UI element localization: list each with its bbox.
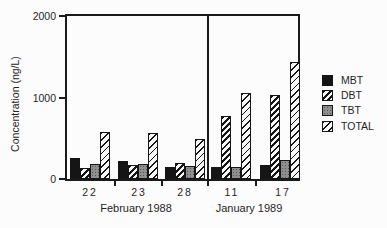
panel-label-1: January 1989 — [189, 202, 309, 214]
bar-dbt-11 — [221, 116, 231, 179]
bar-mbt-28 — [165, 167, 175, 179]
x-tick-mark-1 — [161, 181, 163, 186]
panel-label-0: February 1988 — [76, 202, 196, 214]
legend-entry-mbt: MBT — [322, 75, 374, 86]
bar-dbt-22 — [80, 168, 90, 179]
y-tick-mark-0 — [59, 178, 65, 180]
legend-entry-tbt: TBT — [322, 105, 374, 116]
bar-tbt-28 — [185, 166, 195, 179]
x-category-label-17: 17 — [263, 186, 303, 198]
bar-tbt-17 — [280, 160, 290, 179]
mbt-swatch-icon — [322, 75, 333, 86]
y-tick-mark-2000 — [59, 15, 65, 17]
x-category-label-23: 23 — [119, 186, 159, 198]
bar-mbt-11 — [211, 167, 221, 179]
legend-label: TOTAL — [341, 121, 374, 132]
bar-chart-figure: Concentration (ng/L) 0100020002223281117… — [0, 0, 387, 228]
total-swatch-icon — [322, 121, 333, 132]
y-tick-label-1000: 1000 — [14, 92, 56, 104]
legend-label: DBT — [341, 90, 362, 101]
bar-mbt-17 — [260, 165, 270, 179]
x-tick-mark-3 — [255, 181, 257, 186]
y-tick-label-2000: 2000 — [14, 10, 56, 22]
plot-area — [65, 14, 300, 181]
bar-tbt-23 — [138, 164, 148, 179]
x-tick-mark-0 — [114, 181, 116, 186]
legend: MBT DBT TBT TOTAL — [322, 75, 374, 136]
y-axis-title: Concentration (ng/L) — [9, 44, 23, 164]
tbt-swatch-icon — [322, 105, 333, 116]
y-tick-label-0: 0 — [14, 173, 56, 185]
legend-entry-total: TOTAL — [322, 121, 374, 132]
bar-total-28 — [195, 139, 205, 179]
bar-dbt-17 — [270, 95, 280, 179]
x-tick-mark-2 — [207, 181, 209, 186]
bar-total-17 — [290, 62, 300, 179]
legend-label: TBT — [341, 105, 361, 116]
panel-separator-line — [207, 16, 209, 179]
dbt-swatch-icon — [322, 90, 333, 101]
bar-tbt-11 — [231, 167, 241, 179]
x-category-label-22: 22 — [70, 186, 110, 198]
bar-dbt-28 — [175, 163, 185, 179]
bar-total-22 — [100, 132, 110, 179]
bar-tbt-22 — [90, 164, 100, 179]
bar-mbt-22 — [70, 158, 80, 179]
legend-entry-dbt: DBT — [322, 90, 374, 101]
bar-total-23 — [148, 133, 158, 179]
y-tick-mark-1000 — [59, 97, 65, 99]
bar-mbt-23 — [118, 161, 128, 179]
x-category-label-11: 11 — [212, 186, 252, 198]
x-category-label-28: 28 — [165, 186, 205, 198]
bar-total-11 — [241, 93, 251, 179]
bar-dbt-23 — [128, 165, 138, 179]
legend-label: MBT — [341, 75, 363, 86]
